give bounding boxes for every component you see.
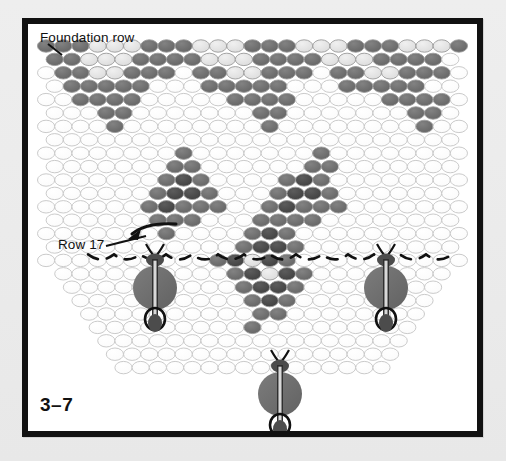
- bead: [210, 40, 227, 52]
- bead: [63, 80, 80, 92]
- row-17-label: Row 17: [58, 237, 104, 252]
- bead: [382, 348, 399, 360]
- bead: [339, 335, 356, 347]
- bead: [270, 160, 287, 172]
- bead: [364, 67, 381, 79]
- bead: [46, 187, 63, 199]
- bead: [382, 67, 399, 79]
- bead: [244, 321, 261, 333]
- bead: [106, 321, 123, 333]
- bead: [347, 348, 364, 360]
- bead: [339, 53, 356, 65]
- bead-chart-canvas: [28, 24, 477, 431]
- bead: [235, 335, 252, 347]
- bead: [425, 53, 442, 65]
- bead: [347, 294, 364, 306]
- bead: [201, 281, 218, 293]
- bead: [149, 53, 166, 65]
- bead: [210, 120, 227, 132]
- bead: [416, 67, 433, 79]
- figure-number: 3–7: [40, 394, 73, 416]
- bead: [356, 160, 373, 172]
- bead: [373, 53, 390, 65]
- bead: [149, 134, 166, 146]
- bead: [141, 201, 158, 213]
- bead: [450, 174, 467, 186]
- bead: [201, 160, 218, 172]
- bead: [124, 67, 141, 79]
- bead: [218, 335, 235, 347]
- bead: [149, 160, 166, 172]
- figure-frame: Foundation row Row 17 3–7: [22, 18, 483, 437]
- bead: [313, 348, 330, 360]
- bead: [244, 174, 261, 186]
- bead: [399, 93, 416, 105]
- bead: [106, 147, 123, 159]
- bead: [115, 134, 132, 146]
- bead: [244, 201, 261, 213]
- bead: [175, 40, 192, 52]
- bead: [450, 147, 467, 159]
- bead: [81, 53, 98, 65]
- bead: [382, 40, 399, 52]
- bead: [158, 93, 175, 105]
- bead-grid: [38, 40, 468, 374]
- bead: [72, 254, 89, 266]
- bead: [141, 40, 158, 52]
- bead: [98, 335, 115, 347]
- bead: [278, 147, 295, 159]
- bead: [356, 308, 373, 320]
- bead: [235, 281, 252, 293]
- bead: [89, 120, 106, 132]
- bead: [46, 214, 63, 226]
- bead: [330, 201, 347, 213]
- bead: [175, 227, 192, 239]
- bead: [253, 241, 270, 253]
- bead: [390, 107, 407, 119]
- bead: [63, 134, 80, 146]
- bead: [416, 294, 433, 306]
- bead: [261, 294, 278, 306]
- bead: [89, 93, 106, 105]
- bead: [356, 80, 373, 92]
- bead: [330, 67, 347, 79]
- bead: [261, 147, 278, 159]
- bead: [270, 107, 287, 119]
- bead: [339, 361, 356, 373]
- bead: [253, 107, 270, 119]
- bead: [244, 40, 261, 52]
- bead: [433, 147, 450, 159]
- bead: [399, 201, 416, 213]
- bead: [89, 67, 106, 79]
- bead: [339, 134, 356, 146]
- bead: [390, 335, 407, 347]
- bead: [278, 201, 295, 213]
- bead: [304, 160, 321, 172]
- bead: [364, 93, 381, 105]
- bead: [132, 361, 149, 373]
- bead: [278, 227, 295, 239]
- bead: [399, 40, 416, 52]
- bead: [227, 348, 244, 360]
- bead: [261, 67, 278, 79]
- bead: [278, 93, 295, 105]
- bead: [433, 93, 450, 105]
- bead: [253, 134, 270, 146]
- bead: [304, 53, 321, 65]
- bead: [407, 134, 424, 146]
- bead: [115, 160, 132, 172]
- bead: [270, 134, 287, 146]
- bead: [106, 348, 123, 360]
- bead: [55, 67, 72, 79]
- bead: [46, 160, 63, 172]
- bead: [425, 281, 442, 293]
- bead: [72, 120, 89, 132]
- bead: [278, 67, 295, 79]
- bead: [433, 40, 450, 52]
- bead: [141, 67, 158, 79]
- bead: [450, 93, 467, 105]
- bead: [149, 241, 166, 253]
- bead: [132, 214, 149, 226]
- bead: [55, 174, 72, 186]
- bead: [141, 93, 158, 105]
